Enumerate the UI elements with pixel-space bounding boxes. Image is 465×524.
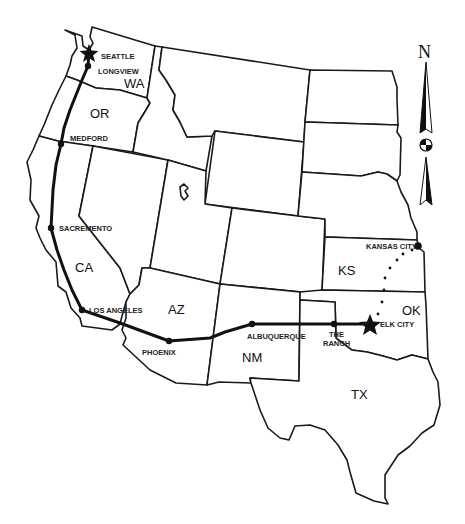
longview-dot-icon xyxy=(85,63,91,69)
label-sacremento: SACREMENTO xyxy=(59,224,112,233)
label-state-tx: TX xyxy=(351,387,368,402)
albuquerque-dot-icon xyxy=(249,321,255,327)
label-albuquerque: ALBUQUERQUE xyxy=(247,332,306,341)
label-state-ok: OK xyxy=(402,303,421,318)
label-elk-city: ELK CITY xyxy=(380,320,414,329)
label-phoenix: PHOENIX xyxy=(142,348,176,357)
label-the-ranch-line1: THE xyxy=(329,330,344,339)
label-state-ks: KS xyxy=(338,263,356,278)
compass-north-label: N xyxy=(418,42,431,62)
state-south-dakota xyxy=(302,122,401,181)
label-state-az: AZ xyxy=(168,302,185,317)
state-wyoming xyxy=(205,131,304,216)
label-longview: LONGVIEW xyxy=(98,67,140,76)
sacremento-dot-icon xyxy=(48,225,54,231)
label-medford: MEDFORD xyxy=(70,134,108,143)
label-state-nm: NM xyxy=(242,350,262,365)
label-the-ranch-line2: RANCH xyxy=(323,339,350,348)
label-state-wa: WA xyxy=(124,76,145,91)
label-state-ca: CA xyxy=(75,260,93,275)
label-los-angeles: LOS ANGELES xyxy=(89,306,142,315)
los-angeles-dot-icon xyxy=(79,307,85,313)
state-north-dakota xyxy=(305,70,398,125)
phoenix-dot-icon xyxy=(166,338,172,344)
state-colorado xyxy=(220,208,325,294)
the-ranch-dot-icon xyxy=(331,321,337,327)
north-arrow-icon: N xyxy=(418,42,432,205)
label-kansas-city: KANSAS CITY xyxy=(366,242,417,251)
medford-dot-icon xyxy=(58,141,64,147)
label-state-or: OR xyxy=(90,106,110,121)
route-map: SEATTLE LONGVIEW MEDFORD SACREMENTO LOS … xyxy=(0,0,465,524)
label-seattle: SEATTLE xyxy=(101,52,135,61)
